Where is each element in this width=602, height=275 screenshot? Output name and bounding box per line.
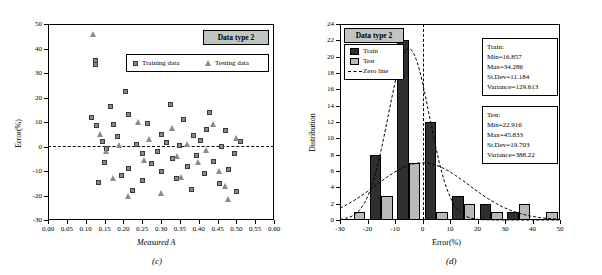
scatter-point-training: [204, 127, 209, 132]
x-axis-label-d: Error(%): [432, 238, 461, 247]
y-tick-mark: [336, 204, 340, 205]
scatter-point-testing: [110, 175, 116, 181]
x-tick-label-50: 50: [546, 225, 574, 233]
scatter-point-testing: [125, 193, 131, 199]
panel-d: Data type 2 Train Test Zero line Train: …: [300, 0, 602, 275]
x-tick-mark: [340, 220, 341, 224]
scatter-point-training: [93, 62, 98, 67]
y-tick-mark: [336, 155, 340, 156]
y-tick-label-18: 18: [312, 69, 334, 77]
y-tick-10: 10: [22, 118, 42, 126]
y-tick-m20: -20: [22, 192, 42, 200]
stats-test-min: Min=22.916: [487, 120, 553, 130]
panel-c-title: Data type 2: [218, 33, 255, 42]
x-axis-label-c: Measured A: [137, 238, 175, 247]
legend-label-test: Test: [363, 57, 375, 65]
y-tick-mark: [336, 73, 340, 74]
y-tick-50: 50: [22, 20, 42, 28]
x-tick-mark: [368, 220, 369, 224]
scatter-point-training: [219, 144, 224, 149]
y-tick-label-4: 4: [312, 183, 334, 191]
y-tick-m10: -10: [22, 167, 42, 175]
scatter-point-training: [177, 143, 182, 148]
scatter-point-testing: [184, 141, 190, 147]
histogram-bar-test: [546, 212, 558, 220]
x-tick-label--30: -30: [326, 225, 354, 233]
histogram-bar-train: [480, 204, 492, 220]
legend-label-train: Train: [363, 47, 378, 55]
scatter-point-testing: [135, 119, 141, 125]
y-tick-mark: [336, 24, 340, 25]
y-tick-mark: [336, 171, 340, 172]
y-axis-label-c: Error(%): [14, 119, 23, 148]
x-tick-mark: [450, 220, 451, 224]
histogram-bar-train: [425, 122, 437, 220]
legend-train-swatch: [350, 48, 359, 55]
stats-train-max: Max=34.286: [487, 62, 553, 72]
scatter-point-training: [168, 102, 173, 107]
stats-test-box: Test: Min=22.916 Max=45.833 St.Dev=19.70…: [482, 106, 558, 164]
y-axis-label-d: Distribution: [308, 113, 317, 152]
scatter-point-testing: [146, 136, 152, 142]
scatter-point-training: [194, 153, 199, 158]
scatter-point-training: [123, 89, 128, 94]
scatter-point-testing: [174, 153, 180, 159]
x-tick-mark: [533, 220, 534, 224]
scatter-point-testing: [225, 196, 231, 202]
histogram-bar-test: [381, 196, 393, 221]
y-tick-40: 40: [22, 45, 42, 53]
scatter-point-training: [202, 171, 207, 176]
scatter-point-testing: [116, 142, 122, 148]
scatter-point-training: [149, 161, 154, 166]
scatter-point-training: [155, 149, 160, 154]
y-tick-label-14: 14: [312, 102, 334, 110]
scatter-point-testing: [203, 147, 209, 153]
histogram-bar-train: [370, 155, 382, 220]
scatter-point-training: [145, 121, 150, 126]
stats-train-box: Train: Min=16.857 Max=34.286 St.Dev=11.1…: [482, 38, 558, 96]
scatter-point-training: [226, 167, 231, 172]
scatter-point-testing: [97, 131, 103, 137]
y-tick-mark: [336, 57, 340, 58]
scatter-point-training: [185, 164, 190, 169]
x-tick-label-0: 0: [409, 225, 437, 233]
y-tick-label-16: 16: [312, 85, 334, 93]
histogram-bar-test: [409, 163, 421, 220]
legend-label-training: Training data: [142, 59, 179, 67]
scatter-point-training: [223, 128, 228, 133]
histogram-bar-train: [507, 212, 519, 220]
x-tick-label-30: 30: [491, 225, 519, 233]
y-tick-mark: [336, 138, 340, 139]
y-tick-label-2: 2: [312, 200, 334, 208]
legend-zeroline-icon: [348, 71, 362, 72]
panel-d-title-badge: Data type 2: [344, 28, 404, 43]
x-tick-mark: [478, 220, 479, 224]
x-tick-mark: [560, 220, 561, 224]
stats-test-heading: Test:: [487, 110, 553, 120]
y-tick-mark: [336, 122, 340, 123]
x-tick-mark: [423, 220, 424, 224]
scatter-point-training: [102, 160, 107, 165]
y-tick-30: 30: [22, 69, 42, 77]
x-tick-label-20: 20: [464, 225, 492, 233]
y-tick-label-24: 24: [312, 20, 334, 28]
legend-square-icon: [133, 61, 138, 66]
panel-c: Data type 2 Training data Testing data 5…: [0, 0, 300, 275]
scatter-point-testing: [216, 168, 222, 174]
scatter-point-testing: [103, 148, 109, 154]
scatter-point-training: [115, 134, 120, 139]
y-tick-0: 0: [22, 143, 42, 151]
panel-c-caption: (c): [152, 256, 162, 266]
x-tick-mark: [395, 220, 396, 224]
histogram-bar-train: [452, 196, 464, 221]
scatter-point-testing: [210, 121, 216, 127]
stats-test-stdev: St.Dev=19.703: [487, 140, 553, 150]
scatter-point-training: [89, 115, 94, 120]
y-tick-mark: [336, 187, 340, 188]
scatter-point-testing: [90, 31, 96, 37]
y-tick-20: 20: [22, 94, 42, 102]
scatter-point-training: [126, 112, 131, 117]
zero-line-c: [48, 146, 274, 147]
scatter-point-testing: [178, 174, 184, 180]
scatter-point-training: [134, 142, 139, 147]
